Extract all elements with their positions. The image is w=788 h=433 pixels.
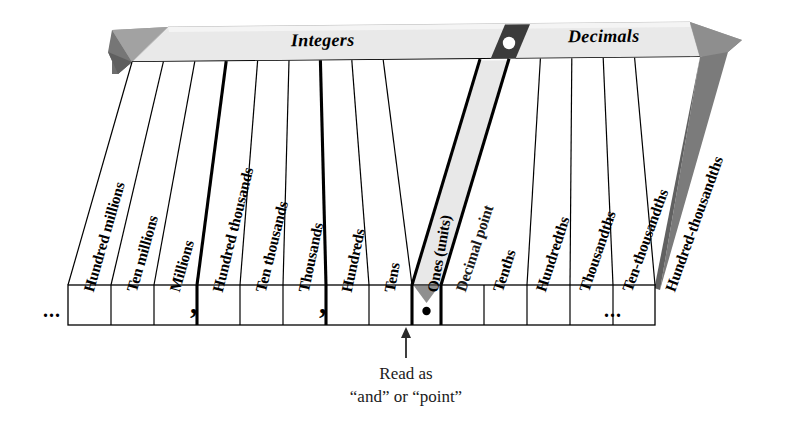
cell-row (68, 285, 655, 325)
place-value-chart: Integers Decimals Hundred millions Ten m… (0, 0, 788, 433)
caption-line-2: “and” or “point” (306, 386, 506, 409)
separator-comma-millions: , (190, 288, 198, 318)
ellipsis-left: ... (43, 300, 61, 320)
caption-pointer-arrow-icon (401, 327, 411, 358)
ellipsis-right: ... (604, 300, 622, 320)
banner-label-decimals: Decimals (568, 26, 640, 48)
caption-block: Read as “and” or “point” (306, 363, 506, 409)
caption-line-1: Read as (306, 363, 506, 386)
separator-comma-thousands: , (319, 288, 327, 318)
banner-label-integers: Integers (291, 30, 355, 52)
